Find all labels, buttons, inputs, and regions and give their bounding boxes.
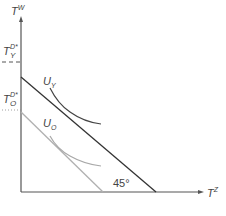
old-utility-label: UO bbox=[43, 118, 56, 131]
budget-line-old bbox=[21, 112, 103, 192]
y-axis-label: TW bbox=[11, 4, 24, 17]
x-axis-label: TZ bbox=[207, 186, 218, 199]
budget-line-young bbox=[21, 77, 156, 192]
indifference-curve-young bbox=[50, 88, 101, 124]
angle-label: 45° bbox=[113, 178, 130, 189]
x-axis-arrow-icon bbox=[198, 190, 204, 194]
old-tax-label: TD*O bbox=[3, 94, 10, 105]
y-axis-arrow-icon bbox=[19, 16, 23, 22]
indifference-curve-old bbox=[50, 136, 101, 166]
young-utility-label: UY bbox=[43, 76, 56, 89]
young-tax-label: TD*Y bbox=[3, 46, 10, 57]
